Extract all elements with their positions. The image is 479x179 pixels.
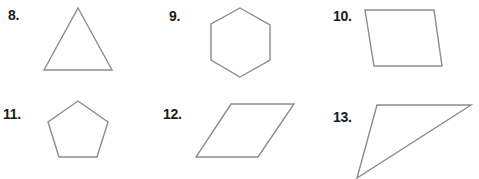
parallelogram-shape-10 [365, 10, 442, 66]
shapes-canvas [0, 0, 479, 179]
problem-number-13: 13. [333, 110, 352, 124]
problem-number-11: 11. [3, 107, 21, 121]
problem-number-10: 10. [333, 9, 352, 23]
problem-number-8: 8. [8, 8, 19, 22]
triangle-shape-13 [357, 105, 471, 178]
hexagon-shape-9 [211, 8, 270, 77]
problem-number-12: 12. [163, 107, 182, 121]
rhombus-shape-12 [196, 104, 294, 157]
triangle-shape-8 [44, 8, 112, 70]
pentagon-shape-11 [48, 101, 108, 157]
problem-number-9: 9. [169, 9, 180, 23]
